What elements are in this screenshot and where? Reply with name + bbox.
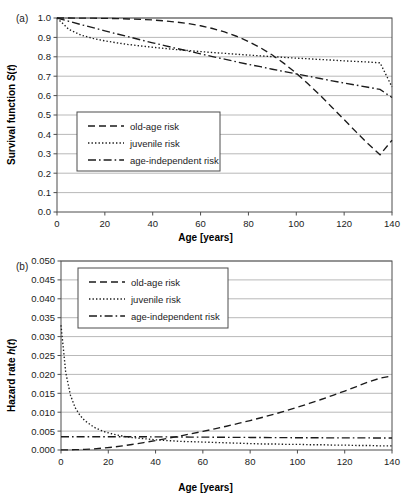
y-tick-label: 0.005 xyxy=(31,426,55,437)
legend-label: juvenile risk xyxy=(130,294,181,305)
x-tick-label: 20 xyxy=(100,218,111,229)
panel-b-plot: 0.0000.0050.0100.0150.0200.0250.0300.035… xyxy=(0,248,411,500)
y-tick-label: 0.7 xyxy=(38,71,51,82)
series-line-juvenile-risk xyxy=(61,325,392,446)
x-tick-label: 100 xyxy=(289,456,305,467)
y-tick-label: 0.1 xyxy=(38,187,51,198)
y-tick-label: 0.9 xyxy=(38,32,51,43)
y-tick-label: 1.0 xyxy=(38,12,51,23)
panel-a-survival: (a) Survival function S(t) 0.00.10.20.30… xyxy=(0,0,411,250)
panel-a-plot: 0.00.10.20.30.40.50.60.70.80.91.00204060… xyxy=(0,0,411,250)
x-tick-label: 40 xyxy=(147,218,158,229)
series-line-old-age-risk xyxy=(61,376,392,450)
legend-label: age-independent risk xyxy=(130,155,219,166)
y-tick-label: 0.035 xyxy=(31,312,55,323)
x-tick-label: 140 xyxy=(384,218,400,229)
y-tick-label: 0.050 xyxy=(31,255,55,266)
panel-a-xlabel: Age [years] xyxy=(0,232,411,243)
legend-label: age-independent risk xyxy=(131,311,220,322)
x-tick-label: 100 xyxy=(288,218,304,229)
y-tick-label: 0.6 xyxy=(38,90,51,101)
x-tick-label: 120 xyxy=(337,456,353,467)
x-tick-label: 60 xyxy=(198,456,209,467)
y-tick-label: 0.010 xyxy=(31,407,55,418)
x-tick-label: 120 xyxy=(336,218,352,229)
y-tick-label: 0.000 xyxy=(31,444,55,455)
legend-label: old-age risk xyxy=(130,121,179,132)
y-tick-label: 0.2 xyxy=(38,168,51,179)
x-tick-label: 80 xyxy=(243,218,254,229)
x-tick-label: 80 xyxy=(245,456,256,467)
x-tick-label: 0 xyxy=(58,456,63,467)
x-tick-label: 0 xyxy=(54,218,59,229)
y-tick-label: 0.030 xyxy=(31,331,55,342)
y-tick-label: 0.5 xyxy=(38,109,51,120)
y-tick-label: 0.8 xyxy=(38,51,51,62)
x-tick-label: 140 xyxy=(384,456,400,467)
legend-label: old-age risk xyxy=(131,277,180,288)
x-tick-label: 20 xyxy=(103,456,114,467)
y-tick-label: 0.025 xyxy=(31,350,55,361)
y-tick-label: 0.4 xyxy=(38,129,51,140)
legend-label: juvenile risk xyxy=(129,138,180,149)
y-tick-label: 0.3 xyxy=(38,148,51,159)
y-tick-label: 0.015 xyxy=(31,388,55,399)
x-tick-label: 60 xyxy=(195,218,206,229)
y-tick-label: 0.020 xyxy=(31,369,55,380)
y-tick-label: 0.040 xyxy=(31,293,55,304)
figure-survival-hazard: (a) Survival function S(t) 0.00.10.20.30… xyxy=(0,0,411,500)
x-tick-label: 40 xyxy=(150,456,161,467)
series-line-age-independent-risk xyxy=(61,437,392,438)
y-tick-label: 0.0 xyxy=(38,206,51,217)
series-line-age-independent-risk xyxy=(57,18,392,98)
panel-b-xlabel: Age [years] xyxy=(0,482,411,493)
panel-b-hazard: (b) Hazard rate h(t) 0.0000.0050.0100.01… xyxy=(0,248,411,500)
y-tick-label: 0.045 xyxy=(31,274,55,285)
